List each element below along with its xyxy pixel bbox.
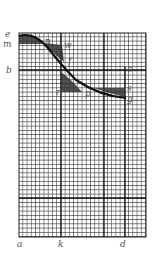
label-k: k <box>58 239 63 249</box>
label-n: n <box>45 36 51 46</box>
label-s: s <box>127 83 132 93</box>
label-d: d <box>120 239 126 249</box>
grid-diagram: e m b a k d n w f r p c s g <box>0 0 152 261</box>
label-m: m <box>3 39 12 49</box>
label-p: p <box>85 88 91 98</box>
label-c: c <box>127 64 132 74</box>
label-w: w <box>64 40 72 50</box>
label-r: r <box>56 87 61 97</box>
label-e: e <box>5 29 10 39</box>
label-b: b <box>6 65 12 75</box>
label-g: g <box>127 94 133 104</box>
label-a: a <box>17 239 22 249</box>
